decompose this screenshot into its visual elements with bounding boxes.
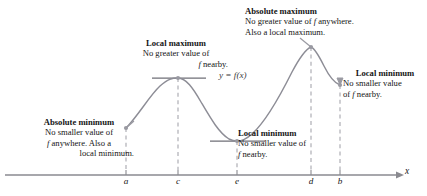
x-axis-ticks [126, 170, 340, 175]
callout-local-minimum-right-line1: No smaller value [343, 78, 427, 88]
callout-local-maximum: Local maximum No greater value of f near… [124, 38, 228, 69]
x-axis-tick-label-a: a [119, 176, 133, 186]
callout-absolute-minimum-line3: local minimum. [24, 148, 134, 158]
callout-absolute-maximum-heading: Absolute maximum [245, 6, 405, 16]
point-c-local-maximum [176, 76, 180, 80]
callout-local-minimum-right-heading: Local minimum [343, 68, 427, 78]
callout-local-minimum-mid: Local minimum No smaller value of f near… [238, 128, 338, 159]
callout-local-minimum-right: Local minimum No smaller value of f near… [343, 68, 427, 99]
x-axis-arrowhead [396, 172, 404, 179]
callout-absolute-maximum-line1: No greater value of f anywhere. [245, 16, 405, 26]
callout-absolute-maximum-line2: Also a local maximum. [245, 27, 405, 37]
callout-absolute-minimum: Absolute minimum No smaller value of f a… [24, 117, 134, 159]
callout-local-maximum-line2: f nearby. [124, 59, 228, 69]
callout-local-maximum-line1: No greater value of [124, 48, 228, 58]
x-axis-label: x [405, 166, 409, 176]
callout-local-minimum-mid-line2: f nearby. [238, 149, 338, 159]
x-axis-tick-label-c: c [171, 176, 185, 186]
callout-absolute-minimum-line2: f anywhere. Also a [24, 138, 134, 148]
callout-local-maximum-heading: Local maximum [124, 38, 228, 48]
callout-absolute-minimum-line1: No smaller value of [24, 127, 134, 137]
extreme-values-figure: Local maximum No greater value of f near… [0, 0, 427, 196]
callout-absolute-minimum-heading: Absolute minimum [24, 117, 134, 127]
x-axis-tick-label-b: b [333, 176, 347, 186]
curve-equation-label: y = f(x) [219, 70, 247, 80]
x-axis-tick-label-e: e [230, 176, 244, 186]
callout-local-minimum-right-line2: of f nearby. [343, 89, 427, 99]
callout-local-minimum-mid-heading: Local minimum [238, 128, 338, 138]
x-axis-tick-label-d: d [304, 176, 318, 186]
callout-local-minimum-mid-line1: No smaller value of [238, 138, 338, 148]
callout-absolute-maximum: Absolute maximum No greater value of f a… [245, 6, 405, 37]
leader-absolute-maximum [300, 38, 311, 47]
